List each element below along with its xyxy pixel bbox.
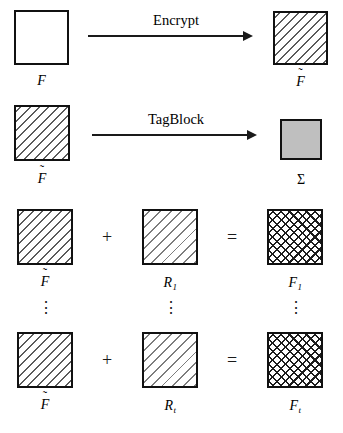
operator-equals-row1: = xyxy=(221,228,243,246)
figure-canvas: F Encrypt ˜ F ˜ F TagBlock Σ + = ˜ F R1 … xyxy=(0,0,343,433)
tilde-accent-icon: ˜ xyxy=(40,163,44,176)
label-row1-right-F1: F1 xyxy=(267,276,323,290)
label-base-F: F xyxy=(289,398,298,413)
block-rowt-right-Ft xyxy=(267,332,323,388)
label-base-R: R xyxy=(164,398,173,413)
tilde-accent-icon: ˜ xyxy=(43,266,47,279)
label-tag-sigma: Σ xyxy=(280,173,322,187)
label-subscript-1: 1 xyxy=(298,282,303,292)
operator-plus-rowt: + xyxy=(96,351,118,369)
label-subscript-1: 1 xyxy=(173,282,178,292)
arrow-shaft xyxy=(92,134,248,136)
block-row1-left-Ftilde xyxy=(17,209,73,265)
arrow-encrypt xyxy=(88,31,253,41)
vertical-ellipsis-middle: ⋮ xyxy=(163,300,177,316)
operation-label-encrypt: Encrypt xyxy=(126,12,226,29)
label-row1-left-Ftilde: ˜ F xyxy=(17,275,73,289)
block-plaintext-F xyxy=(14,10,69,65)
label-rowt-middle-Rt: Rt xyxy=(142,399,198,413)
label-tagblock-input-Ftilde: ˜ F xyxy=(14,172,70,186)
block-rowt-middle-Rt xyxy=(142,332,198,388)
block-tagblock-input-Ftilde xyxy=(14,105,70,161)
label-row1-middle-R1: R1 xyxy=(142,276,198,290)
label-base-R: R xyxy=(163,275,172,290)
block-ciphertext-Ftilde xyxy=(273,11,328,65)
vertical-ellipsis-left: ⋮ xyxy=(38,300,52,316)
arrow-tagblock xyxy=(92,130,257,140)
block-tag-sigma xyxy=(280,119,322,160)
label-subscript-t: t xyxy=(299,405,302,415)
label-rowt-right-Ft: Ft xyxy=(267,399,323,413)
operation-label-tagblock: TagBlock xyxy=(124,111,228,128)
block-row1-right-F1 xyxy=(267,209,323,265)
vertical-ellipsis-right: ⋮ xyxy=(288,300,302,316)
label-base-F: F xyxy=(288,275,297,290)
operator-equals-rowt: = xyxy=(221,351,243,369)
block-row1-middle-R1 xyxy=(142,209,198,265)
tilde-accent-icon: ˜ xyxy=(43,389,47,402)
arrow-shaft xyxy=(88,35,244,37)
block-rowt-left-Ftilde xyxy=(17,332,73,388)
operator-plus-row1: + xyxy=(96,228,118,246)
label-plaintext-F: F xyxy=(14,74,69,88)
arrow-head xyxy=(243,31,253,41)
arrow-head xyxy=(247,130,257,140)
tilde-accent-icon: ˜ xyxy=(298,66,302,79)
label-rowt-left-Ftilde: ˜ F xyxy=(17,398,73,412)
label-ciphertext-Ftilde: ˜ F xyxy=(273,75,328,89)
label-subscript-t: t xyxy=(174,405,177,415)
